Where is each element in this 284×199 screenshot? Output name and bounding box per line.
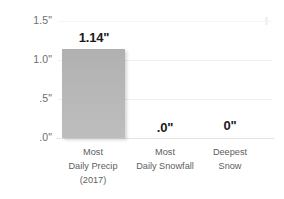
category-label-most-daily-precip: Most Daily Precip (2017) bbox=[56, 145, 130, 187]
category-line-2: Snow bbox=[197, 159, 263, 173]
axis-baseline bbox=[56, 138, 274, 139]
category-label-most-daily-snowfall: Most Daily Snowfall bbox=[128, 145, 202, 173]
category-line-1: Deepest bbox=[197, 145, 263, 159]
y-axis-tick-1-0: 1.0" bbox=[4, 54, 52, 65]
category-line-3: (2017) bbox=[56, 173, 130, 187]
gridline-1-5 bbox=[58, 21, 272, 22]
y-axis-tick-0-5: .5" bbox=[4, 93, 52, 104]
category-line-2: Daily Precip bbox=[56, 159, 130, 173]
precipitation-bar-chart: 1.5" 1.0" .5" .0" 1.14" .0" 0" Most Dail… bbox=[0, 0, 284, 199]
y-axis-tick-1-5: 1.5" bbox=[4, 15, 52, 26]
category-line-2: Daily Snowfall bbox=[128, 159, 202, 173]
category-line-1: Most bbox=[56, 145, 130, 159]
value-label-most-daily-snowfall: .0" bbox=[131, 120, 199, 135]
bar-most-daily-precip[interactable] bbox=[62, 49, 125, 138]
corner-mark-icon bbox=[265, 17, 268, 25]
plot-area: 1.5" 1.0" .5" .0" 1.14" .0" 0" Most Dail… bbox=[0, 0, 284, 199]
y-axis-tick-0-0: .0" bbox=[4, 132, 52, 143]
value-label-most-daily-precip: 1.14" bbox=[58, 30, 130, 45]
value-label-deepest-snow: 0" bbox=[198, 118, 262, 133]
category-label-deepest-snow: Deepest Snow bbox=[197, 145, 263, 173]
category-line-1: Most bbox=[128, 145, 202, 159]
